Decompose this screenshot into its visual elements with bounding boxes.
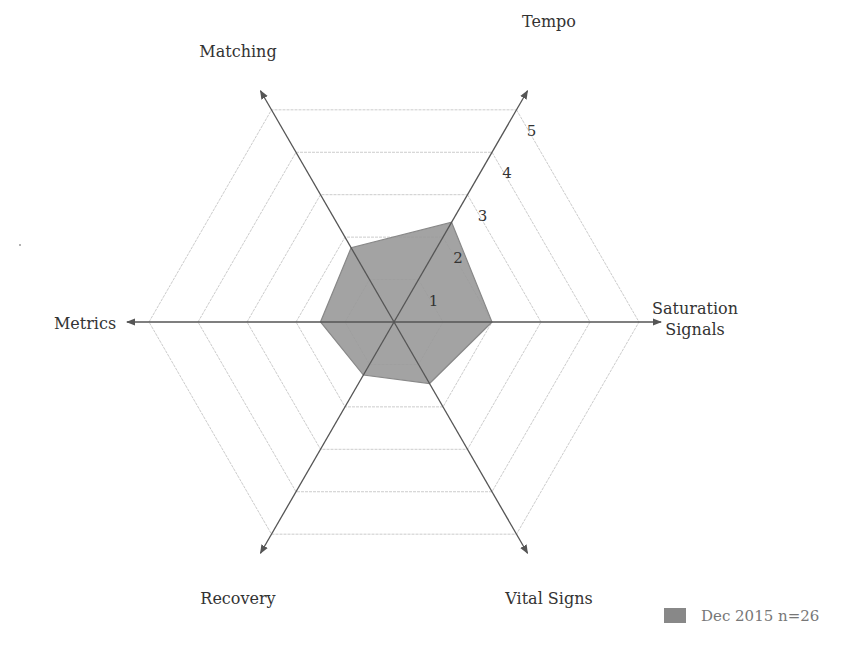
- radar-chart: 12345 TempoSaturationSignalsVital SignsR…: [0, 0, 857, 649]
- axis-label-metrics: Metrics: [54, 314, 116, 333]
- radar-axes: [127, 91, 661, 554]
- tick-label-3: 3: [478, 207, 488, 225]
- tick-label-1: 1: [429, 292, 439, 310]
- data-series: [321, 222, 493, 383]
- legend: Dec 2015 n=26: [664, 607, 819, 625]
- tick-label-4: 4: [502, 164, 512, 182]
- tick-label-2: 2: [453, 249, 463, 267]
- axis-line-5: [260, 91, 394, 322]
- axis-label-tempo: Tempo: [522, 12, 576, 31]
- axis-label-saturation-signals: SaturationSignals: [652, 299, 738, 339]
- legend-swatch: [664, 608, 686, 623]
- axis-label-vital-signs: Vital Signs: [504, 589, 592, 608]
- legend-label: Dec 2015 n=26: [701, 607, 819, 625]
- tick-label-5: 5: [527, 122, 537, 140]
- series-polygon-0: [321, 222, 493, 383]
- axis-line-3: [260, 322, 394, 553]
- axis-line-2: [394, 322, 528, 553]
- axis-label-recovery: Recovery: [200, 589, 275, 608]
- stray-dot: [19, 244, 21, 246]
- axis-label-matching: Matching: [199, 42, 276, 61]
